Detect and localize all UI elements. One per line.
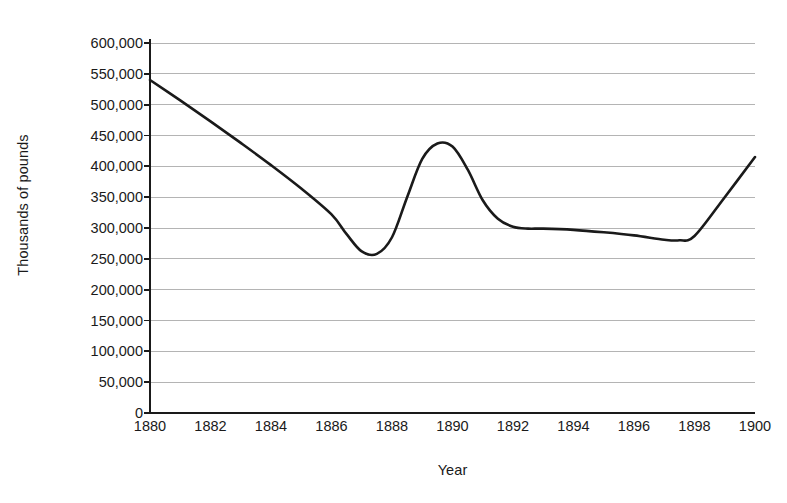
x-tick-label: 1886: [297, 419, 367, 434]
y-tick-label: 200,000: [55, 283, 143, 298]
line-chart: Thousands of pounds Year 050,000100,0001…: [0, 0, 787, 503]
y-tick-label: 550,000: [55, 67, 143, 82]
x-tick-label: 1894: [539, 419, 609, 434]
y-tick-label: 600,000: [55, 36, 143, 51]
y-tick-label: 50,000: [55, 375, 143, 390]
x-tick-label: 1882: [176, 419, 246, 434]
y-axis-title: Thousands of pounds: [15, 105, 31, 305]
y-tick-label: 150,000: [55, 314, 143, 329]
x-tick-label: 1888: [357, 419, 427, 434]
y-tick-label: 350,000: [55, 190, 143, 205]
y-tick-label: 450,000: [55, 129, 143, 144]
x-tick-label: 1884: [236, 419, 306, 434]
y-tick-label: 250,000: [55, 252, 143, 267]
x-tick-label: 1890: [418, 419, 488, 434]
x-tick-label: 1880: [115, 419, 185, 434]
x-tick-label: 1896: [599, 419, 669, 434]
y-tick-label: 300,000: [55, 221, 143, 236]
data-series-line: [150, 80, 755, 255]
x-tick-label: 1898: [660, 419, 730, 434]
x-tick-label: 1892: [478, 419, 548, 434]
y-tick-label: 500,000: [55, 98, 143, 113]
gridlines: [150, 43, 755, 382]
y-tick-label: 400,000: [55, 159, 143, 174]
x-axis-title: Year: [150, 462, 755, 478]
y-tick-label: 100,000: [55, 344, 143, 359]
x-tick-label: 1900: [720, 419, 787, 434]
